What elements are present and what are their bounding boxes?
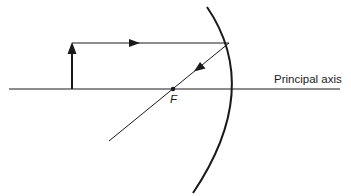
focal-point-dot — [171, 87, 175, 91]
focal-point-label: F — [170, 93, 177, 105]
reflected-ray — [109, 43, 229, 141]
concave-mirror — [193, 7, 232, 193]
incident-ray-arrow-icon — [129, 39, 140, 47]
principal-axis-label: Principal axis — [274, 73, 342, 85]
object-arrow-head-icon — [68, 42, 77, 54]
